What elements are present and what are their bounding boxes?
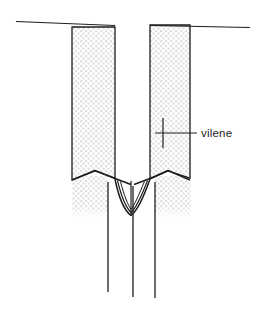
right-tail-stipple (155, 174, 191, 218)
left-tail-stipple (72, 174, 108, 218)
figure-root: vilene (0, 0, 264, 324)
vilene-label: vilene (201, 127, 232, 139)
left-vilene-band (72, 27, 115, 180)
canvas-background (0, 0, 264, 324)
vilene-seam-diagram: vilene (0, 0, 264, 324)
right-vilene-band (150, 25, 190, 179)
